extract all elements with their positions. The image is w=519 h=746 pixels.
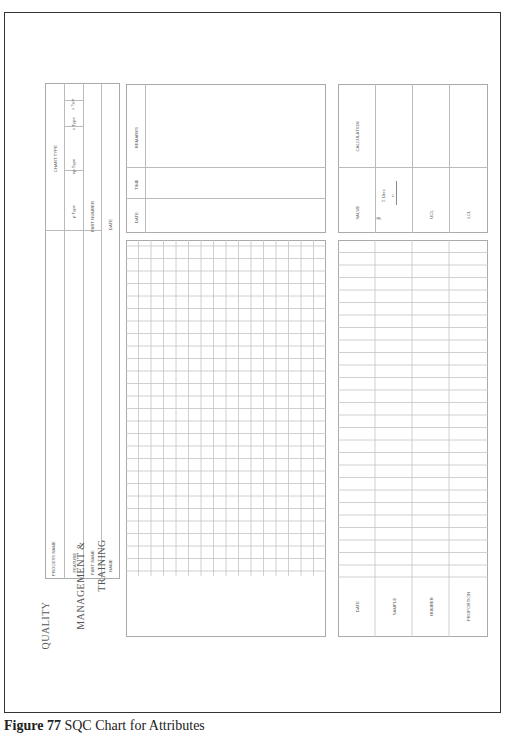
p-type-option[interactable]: p Type: [71, 187, 76, 237]
name-label: NAME: [108, 541, 113, 591]
data-table-grid: [338, 240, 488, 637]
value-label: VALUE: [355, 188, 360, 238]
divider: [145, 84, 146, 233]
column-header-number: NUMBER: [429, 582, 434, 632]
divider: [338, 167, 488, 168]
p-bar-symbol: p̄: [375, 208, 381, 228]
column-header-sample: SAMPLE: [392, 582, 397, 632]
date-label-remarks: DATE: [134, 193, 139, 243]
divider: [126, 167, 326, 168]
process-name-label: PROCESS NAME: [51, 534, 56, 584]
brand-management: MANAGEMENT &: [75, 541, 86, 631]
brand-quality: QUALITY: [40, 591, 51, 661]
u-type-option[interactable]: u Type: [71, 79, 75, 129]
figure-title: SQC Chart for Attributes: [64, 718, 204, 733]
date-label: DATE: [108, 200, 113, 250]
remarks-label: REMARKS: [134, 113, 139, 163]
divider: [83, 83, 84, 579]
figure-caption: Figure 77 SQC Chart for Attributes: [4, 718, 205, 734]
divider: [101, 83, 102, 579]
brand-training: TRAINING: [96, 531, 107, 601]
divider: [412, 84, 413, 233]
plot-grid: [126, 240, 326, 637]
part-name-label: PART NAME: [90, 538, 95, 588]
ucl-label: UCL: [429, 190, 434, 240]
part-number-label: PART NUMBER: [90, 192, 95, 242]
column-header-date: DATE: [355, 582, 360, 632]
divider: [64, 83, 65, 579]
divider: [126, 198, 326, 199]
calculation-label: CALCULATION: [355, 112, 360, 162]
column-header-proportion: PROPORTION: [466, 582, 471, 632]
remarks-block: [126, 84, 326, 233]
formula-denominator: n: [390, 181, 395, 211]
np-type-option[interactable]: np Type: [71, 142, 76, 192]
chart-type-label: CHART TYPE: [53, 134, 58, 184]
figure-number: Figure 77: [4, 718, 61, 733]
formula-numerator: Σ Dtec: [381, 181, 386, 211]
formula-fraction-bar: [396, 181, 397, 205]
divider: [449, 84, 450, 233]
lcl-label: LCL: [466, 190, 471, 240]
